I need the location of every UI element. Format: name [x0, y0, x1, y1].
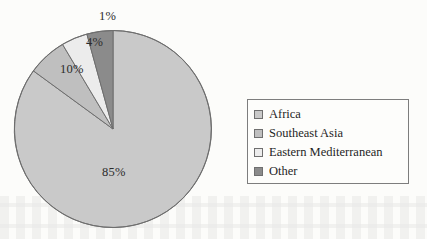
- legend-label-africa: Africa: [269, 108, 301, 121]
- legend-swatch-eastern-mediterranean: [254, 148, 263, 157]
- legend-item-southeast-asia[interactable]: Southeast Asia: [254, 124, 408, 143]
- pie-chart-figure: 1% 4% 10% 85% Africa Southeast Asia East…: [0, 0, 427, 239]
- legend-swatch-southeast-asia: [254, 129, 263, 138]
- legend: Africa Southeast Asia Eastern Mediterran…: [247, 99, 409, 184]
- slice-label-southeast-asia: 10%: [60, 62, 84, 77]
- legend-item-eastern-mediterranean[interactable]: Eastern Mediterranean: [254, 143, 408, 162]
- legend-item-africa[interactable]: Africa: [254, 105, 408, 124]
- legend-label-southeast-asia: Southeast Asia: [269, 127, 343, 140]
- legend-swatch-africa: [254, 110, 263, 119]
- slice-label-other: 1%: [99, 9, 116, 24]
- legend-item-other[interactable]: Other: [254, 162, 408, 181]
- legend-label-other: Other: [269, 165, 297, 178]
- pie-slices: [14, 31, 211, 228]
- slice-label-africa: 85%: [102, 165, 126, 180]
- legend-label-eastern-mediterranean: Eastern Mediterranean: [269, 146, 382, 159]
- legend-swatch-other: [254, 167, 263, 176]
- slice-label-eastern-mediterranean: 4%: [86, 35, 103, 50]
